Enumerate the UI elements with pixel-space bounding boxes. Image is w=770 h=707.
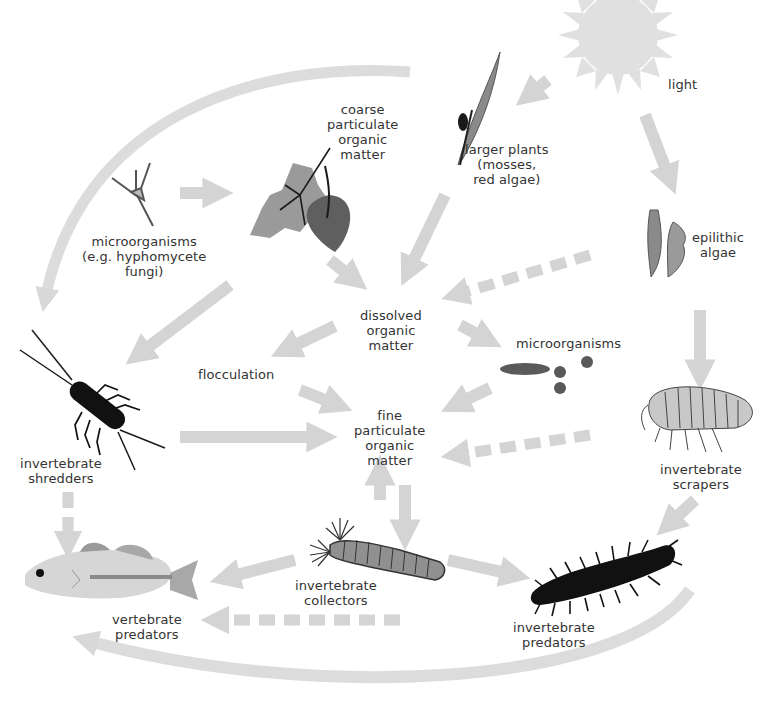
epilithic-algae-icon [648, 210, 686, 277]
label-vertebrate-predators: vertebrate predators [112, 612, 182, 642]
arrow-dom-to-microorganisms [460, 325, 488, 340]
arrow-plants-to-dom [408, 195, 445, 272]
arrow-light-to-plants [528, 80, 548, 96]
collector-larva-icon [310, 518, 445, 580]
arrow-dom-to-shredders [138, 285, 230, 355]
label-coarse-pom: coarse particulate organic matter [327, 102, 398, 162]
arrow-collectors-to-inv-predators [448, 560, 515, 575]
arrow-microorganisms-to-fpom [455, 388, 490, 405]
label-shredders: invertebrate shredders [20, 456, 102, 486]
arrow-light-to-algae [645, 115, 670, 180]
predator-larva-icon [531, 540, 682, 616]
label-light: light [668, 77, 697, 92]
arrow-dom-to-flocculation [285, 326, 335, 350]
label-larger-plants: larger plants (mosses, red algae) [465, 142, 549, 187]
label-fine-pom: fine particulate organic matter [354, 408, 425, 468]
leaves-icon [250, 148, 350, 252]
label-collectors: invertebrate collectors [295, 578, 377, 608]
arrow-collectors-to-vert-predators [225, 560, 295, 578]
arrow-scrapers-to-fpom-dashed [455, 435, 590, 455]
label-invertebrate-predators: invertebrate predators [513, 620, 595, 650]
arrow-scrapers-to-inv-predators [668, 500, 695, 525]
label-microorganisms: microorganisms [516, 336, 621, 351]
fungi-icon [112, 163, 153, 226]
label-epilithic-algae: epilithic algae [692, 230, 744, 260]
sun-icon [558, 0, 678, 95]
label-flocculation: flocculation [198, 367, 274, 382]
stream-food-web-diagram: light larger plants (mosses, red algae) … [0, 0, 770, 707]
arrow-cpom-to-dom [330, 260, 355, 280]
microorganisms-icon [500, 356, 593, 394]
label-microorganisms-fungi: microorganisms (e.g. hyphomycete fungi) [82, 234, 206, 279]
label-scrapers: invertebrate scrapers [660, 462, 742, 492]
fish-icon [25, 543, 198, 600]
label-dissolved-om: dissolved organic matter [360, 308, 422, 353]
arrow-algae-to-dom-dashed [455, 255, 590, 295]
arrow-flocculation-to-fpom [300, 390, 338, 405]
scraper-amphipod-icon [642, 387, 753, 452]
